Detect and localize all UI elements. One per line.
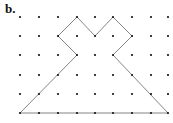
grid-dot <box>94 35 96 37</box>
dot-grid-diagram <box>0 0 173 123</box>
grid-dot <box>38 74 40 76</box>
grid-dot <box>38 93 40 95</box>
grid-dot <box>131 93 133 95</box>
polygon-shape <box>20 17 168 113</box>
grid-dot <box>38 54 40 56</box>
grid-dot <box>150 54 152 56</box>
grid-dot <box>19 112 21 114</box>
grid-dot <box>38 16 40 18</box>
grid-dot <box>76 93 78 95</box>
grid-dot <box>131 16 133 18</box>
grid-dot <box>57 16 59 18</box>
grid-dot <box>112 93 114 95</box>
grid-dot <box>150 93 152 95</box>
grid-dot <box>76 35 78 37</box>
grid-dot <box>150 16 152 18</box>
grid-dot <box>57 35 59 37</box>
grid-dot <box>19 16 21 18</box>
grid-dot <box>167 112 169 114</box>
grid-dot <box>150 112 152 114</box>
grid-dot <box>167 74 169 76</box>
grid-dot <box>76 74 78 76</box>
grid-dot <box>112 35 114 37</box>
grid-dot <box>112 16 114 18</box>
grid-dot <box>19 93 21 95</box>
grid-dot <box>167 16 169 18</box>
grid-dot <box>19 74 21 76</box>
grid-dot <box>112 54 114 56</box>
grid-dot <box>112 112 114 114</box>
grid-dot <box>57 93 59 95</box>
grid-dot <box>150 74 152 76</box>
grid-dot <box>76 54 78 56</box>
grid-dot <box>131 54 133 56</box>
grid-dot <box>167 35 169 37</box>
grid-dots <box>19 16 169 114</box>
grid-dot <box>57 112 59 114</box>
grid-dot <box>131 112 133 114</box>
grid-dot <box>112 74 114 76</box>
grid-dot <box>131 35 133 37</box>
grid-dot <box>131 74 133 76</box>
grid-dot <box>76 112 78 114</box>
grid-dot <box>57 74 59 76</box>
grid-dot <box>167 54 169 56</box>
grid-dot <box>38 35 40 37</box>
grid-dot <box>76 16 78 18</box>
grid-dot <box>94 16 96 18</box>
grid-dot <box>94 112 96 114</box>
grid-dot <box>57 54 59 56</box>
grid-dot <box>94 93 96 95</box>
grid-dot <box>94 74 96 76</box>
grid-dot <box>94 54 96 56</box>
grid-dot <box>19 35 21 37</box>
grid-dot <box>19 54 21 56</box>
grid-dot <box>150 35 152 37</box>
grid-dot <box>38 112 40 114</box>
grid-dot <box>167 93 169 95</box>
